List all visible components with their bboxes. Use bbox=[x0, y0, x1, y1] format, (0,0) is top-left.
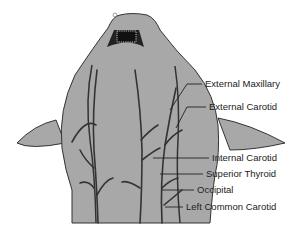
mouth-opening bbox=[117, 31, 136, 42]
label-occipital: Occipital bbox=[197, 185, 233, 195]
label-external-maxillary: External Maxillary bbox=[205, 79, 280, 89]
label-external-carotid: External Carotid bbox=[209, 102, 277, 112]
label-superior-thyroid: Superior Thyroid bbox=[206, 169, 276, 179]
left-pectoral-fin bbox=[17, 120, 65, 147]
label-internal-carotid: Internal Carotid bbox=[212, 153, 277, 163]
label-left-common-carotid: Left Common Carotid bbox=[186, 202, 276, 212]
snout-tip bbox=[113, 13, 117, 17]
right-pectoral-fin bbox=[218, 118, 285, 150]
